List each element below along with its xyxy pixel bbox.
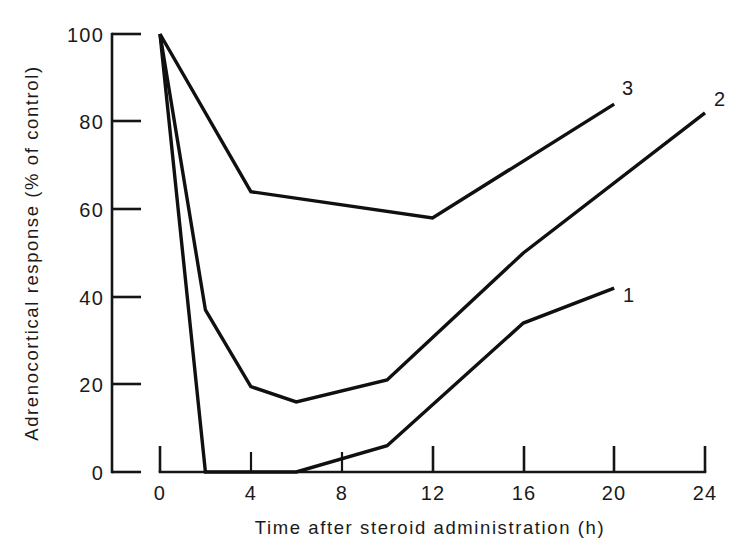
- series-line-3: [160, 34, 614, 218]
- y-tick-label-60: 60: [79, 199, 104, 221]
- x-tick-label-16: 16: [512, 482, 537, 504]
- y-tick-label-40: 40: [79, 287, 104, 309]
- y-tick-label-100: 100: [67, 24, 104, 46]
- x-tick-label-20: 20: [602, 482, 627, 504]
- x-tick-label-0: 0: [154, 482, 166, 504]
- y-axis-title: Adrenocortical response (% of control): [21, 65, 42, 440]
- y-tick-label-20: 20: [79, 374, 104, 396]
- x-tick-label-8: 8: [336, 482, 348, 504]
- y-axis-ticks: [112, 34, 141, 472]
- x-tick-label-24: 24: [693, 482, 718, 504]
- line-chart-canvas: 100 80 60 40 20 0 0 4: [0, 0, 742, 549]
- y-axis: 100 80 60 40 20 0: [67, 24, 141, 484]
- series-line-1: [160, 34, 614, 472]
- x-axis: 0 4 8 12 16 20 24: [154, 446, 717, 504]
- x-tick-label-12: 12: [421, 482, 446, 504]
- data-series-group: [160, 34, 705, 472]
- series-label-2: 2: [714, 88, 725, 110]
- y-axis-tick-labels: 100 80 60 40 20 0: [67, 24, 104, 484]
- x-axis-title: Time after steroid administration (h): [255, 517, 606, 538]
- y-tick-label-80: 80: [79, 111, 104, 133]
- series-labels: 3 2 1: [622, 77, 725, 306]
- series-label-1: 1: [623, 284, 634, 306]
- x-axis-tick-labels: 0 4 8 12 16 20 24: [154, 482, 717, 504]
- x-axis-ticks: [160, 446, 705, 472]
- chart-figure: 100 80 60 40 20 0 0 4: [0, 0, 742, 549]
- series-label-3: 3: [622, 77, 633, 99]
- y-tick-label-0: 0: [92, 462, 104, 484]
- x-tick-label-4: 4: [245, 482, 257, 504]
